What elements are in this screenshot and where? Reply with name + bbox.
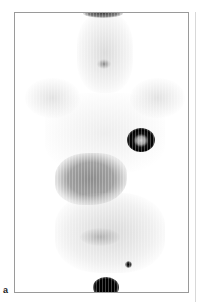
bladder-uptake [93, 277, 119, 293]
heart-uptake [127, 128, 155, 152]
head-neck-region [77, 13, 133, 93]
focal-uptake [125, 261, 132, 268]
panel-label: a [3, 285, 8, 295]
adjacent-panel-edge [195, 12, 196, 302]
neck-uptake [97, 59, 111, 69]
pet-mip-image [14, 12, 189, 293]
bowel-uptake [80, 228, 120, 246]
